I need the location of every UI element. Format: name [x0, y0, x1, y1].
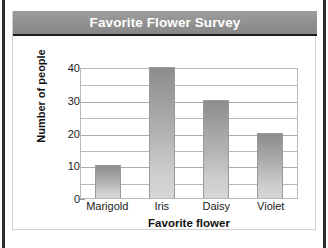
- y-tick-label: 30: [54, 95, 80, 106]
- y-tick-label: 20: [54, 128, 80, 139]
- bar-daisy: [203, 100, 229, 198]
- bar-slot: [135, 69, 189, 198]
- bar-iris: [149, 67, 175, 198]
- bar-slot: [81, 69, 135, 198]
- y-axis-ticks: 010203040: [46, 68, 80, 199]
- x-axis-title: Favorite flower: [80, 217, 298, 229]
- bar-slot: [189, 69, 243, 198]
- bar-series: [81, 69, 297, 198]
- x-axis-tick-labels: MarigoldIrisDaisyViolet: [80, 201, 298, 212]
- x-tick-label: Violet: [244, 201, 299, 212]
- chart-plot-region: Number of people 010203040 MarigoldIrisD…: [13, 38, 317, 230]
- y-tick-label: 10: [54, 161, 80, 172]
- bar-violet: [257, 133, 283, 199]
- page-right-rail: [323, 0, 326, 248]
- y-tick-mark: [80, 199, 85, 200]
- bar-marigold: [95, 165, 121, 198]
- x-tick-label: Daisy: [189, 201, 244, 212]
- y-tick-label: 0: [54, 194, 80, 205]
- plot-area: [80, 68, 298, 199]
- bar-slot: [243, 69, 297, 198]
- page-left-rail: [2, 0, 5, 248]
- chart-image: Favorite Flower Survey Number of people …: [0, 0, 328, 248]
- x-tick-label: Marigold: [80, 201, 135, 212]
- x-tick-label: Iris: [135, 201, 190, 212]
- chart-title-banner: Favorite Flower Survey: [13, 11, 317, 36]
- y-tick-label: 40: [54, 63, 80, 74]
- chart-title: Favorite Flower Survey: [90, 16, 241, 30]
- chart-card: Favorite Flower Survey Number of people …: [12, 11, 316, 230]
